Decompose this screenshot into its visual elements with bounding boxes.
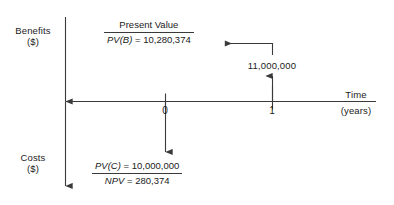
discount-arrow-icon (225, 44, 273, 56)
present-value-annotation: Present Value PV(B) = 10,280,374 (104, 19, 194, 46)
tick-label-1: 1 (259, 105, 285, 116)
npv-timeline-diagram: Benefits ($) Costs ($) Time (years) 0 1 … (0, 0, 394, 205)
benefits-axis-label-line1: Benefits (6, 25, 60, 36)
pv-costs-value: = 10,000,000 (121, 160, 179, 171)
present-value-heading: Present Value (104, 19, 194, 33)
pv-benefits-symbol: PV(B) (107, 34, 132, 45)
benefits-axis-label: Benefits ($) (6, 25, 60, 47)
time-axis-units-label: (years) (330, 105, 382, 116)
npv-line: NPV = 280,374 (92, 174, 182, 187)
costs-axis-label: Costs ($) (6, 152, 60, 174)
inflow-amount-label: 11,000,000 (232, 60, 312, 71)
npv-symbol: NPV (105, 175, 125, 186)
costs-axis-label-line1: Costs (6, 152, 60, 163)
costs-axis-label-line2: ($) (6, 163, 60, 174)
time-axis-label: Time (330, 89, 382, 100)
tick-label-0: 0 (152, 105, 178, 116)
pv-costs-line: PV(C) = 10,000,000 (92, 160, 182, 174)
pv-benefits-value: = 10,280,374 (132, 34, 190, 45)
pv-costs-symbol: PV(C) (95, 160, 121, 171)
npv-value: = 280,374 (124, 175, 169, 186)
pv-benefits-line: PV(B) = 10,280,374 (104, 33, 194, 46)
benefits-axis-label-line2: ($) (6, 36, 60, 47)
npv-annotation: PV(C) = 10,000,000 NPV = 280,374 (92, 160, 182, 187)
